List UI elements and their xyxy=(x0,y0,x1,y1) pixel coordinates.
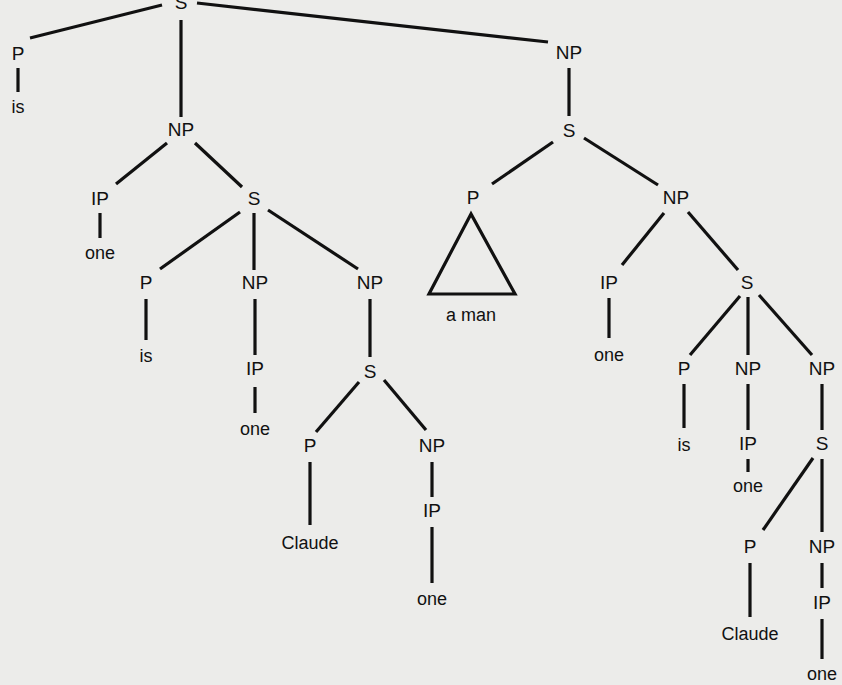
tree-node-label: IP xyxy=(739,433,757,454)
tree-leaf-word: is xyxy=(678,435,691,455)
tree-node-label: P xyxy=(678,358,691,379)
tree-triangles xyxy=(429,214,515,294)
tree-leaf-word: Claude xyxy=(721,624,778,644)
tree-node-label: S xyxy=(563,120,576,141)
tree-nodes: SPisNPIPoneSPisNPIPoneNPSPClaudeNPIPoneN… xyxy=(12,0,838,684)
syntax-tree-diagram: SPisNPIPoneSPisNPIPoneNPSPClaudeNPIPoneN… xyxy=(0,0,842,685)
tree-leaf-word: one xyxy=(807,664,837,684)
tree-leaf-word: a man xyxy=(446,305,496,325)
tree-node-label: NP xyxy=(419,435,445,456)
tree-node-label: P xyxy=(304,435,317,456)
tree-node-label: IP xyxy=(91,188,109,209)
tree-edge xyxy=(268,210,358,269)
tree-node-label: S xyxy=(175,0,188,13)
tree-leaf-word: one xyxy=(85,243,115,263)
tree-node-label: P xyxy=(140,272,153,293)
tree-node-label: NP xyxy=(663,187,689,208)
tree-node-label: NP xyxy=(357,272,383,293)
tree-node-label: NP xyxy=(809,358,835,379)
tree-node-label: S xyxy=(248,188,261,209)
tree-edge xyxy=(584,138,658,185)
tree-leaf-word: one xyxy=(417,589,447,609)
tree-node-label: IP xyxy=(813,592,831,613)
tree-node-label: P xyxy=(744,536,757,557)
tree-node-label: IP xyxy=(246,358,264,379)
tree-edge xyxy=(384,380,426,430)
tree-edge xyxy=(195,143,242,187)
tree-edge xyxy=(116,143,167,184)
tree-edge xyxy=(197,3,548,42)
tree-edge xyxy=(316,382,359,432)
tree-node-label: NP xyxy=(735,358,761,379)
tree-edge xyxy=(30,5,162,38)
tree-edges xyxy=(18,3,822,659)
tree-leaf-word: Claude xyxy=(281,533,338,553)
constituent-triangle xyxy=(429,214,515,294)
tree-node-label: P xyxy=(467,187,480,208)
tree-node-label: S xyxy=(364,361,377,382)
tree-leaf-word: one xyxy=(733,476,763,496)
tree-node-label: NP xyxy=(242,272,268,293)
tree-edge xyxy=(688,212,738,270)
tree-node-label: S xyxy=(741,272,754,293)
tree-leaf-word: one xyxy=(594,345,624,365)
tree-leaf-word: is xyxy=(140,346,153,366)
tree-edge xyxy=(763,458,813,530)
tree-edge xyxy=(759,295,812,355)
tree-leaf-word: one xyxy=(240,419,270,439)
tree-node-label: NP xyxy=(168,119,194,140)
tree-node-label: NP xyxy=(809,536,835,557)
tree-edge xyxy=(160,212,240,269)
tree-edge xyxy=(622,213,664,265)
tree-edge xyxy=(492,142,553,184)
tree-node-label: IP xyxy=(423,500,441,521)
tree-node-label: S xyxy=(816,433,829,454)
tree-node-label: NP xyxy=(556,42,582,63)
tree-edge xyxy=(690,296,740,355)
tree-node-label: P xyxy=(12,43,25,64)
tree-leaf-word: is xyxy=(12,97,25,117)
tree-node-label: IP xyxy=(600,272,618,293)
